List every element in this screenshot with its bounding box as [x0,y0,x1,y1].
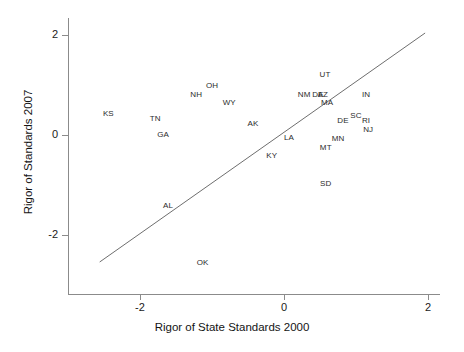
data-point-label: KS [103,109,114,118]
data-point-label: AK [248,119,259,128]
data-point-label: OK [197,258,209,267]
y-tick-label: 0 [32,129,58,140]
x-tick-label: -2 [127,302,153,313]
y-tick [62,35,68,36]
x-tick-label: 2 [415,302,441,313]
y-tick [62,235,68,236]
y-tick-label: -2 [32,229,58,240]
data-point-label: WY [223,98,236,107]
y-tick [62,135,68,136]
data-point-label: LA [284,133,294,142]
data-point-label: MN [332,134,345,143]
y-tick-label: 2 [32,29,58,40]
data-point-label: MT [320,143,332,152]
data-point-label: RI [362,116,370,125]
data-point-label: NH [190,90,202,99]
data-point-label: AL [163,201,173,210]
data-point-label: NM [298,90,311,99]
data-point-label: TN [150,114,161,123]
data-point-label: NJ [363,125,373,134]
x-axis-title: Rigor of State Standards 2000 [0,321,464,333]
y-axis-title: Rigor of Standards 2007 [22,12,34,292]
data-point-label: GA [157,130,169,139]
y-axis-line [68,18,69,295]
data-point-label: DE [337,116,348,125]
x-axis-line [68,294,440,295]
trend-line [0,0,464,352]
data-point-label: IN [362,90,370,99]
x-tick [140,294,141,300]
data-point-label: UT [320,70,331,79]
data-point-label: SC [350,111,361,120]
data-point-label: MA [321,98,333,107]
x-tick [284,294,285,300]
data-point-label: KY [266,151,277,160]
data-point-label: SD [320,179,331,188]
x-tick-label: 0 [271,302,297,313]
scatter-plot: 20-2 -202 KSTNGANHOHWYAKALOKKYLANMDEAZUT… [0,0,464,352]
data-point-label: OH [206,81,218,90]
x-tick [428,294,429,300]
